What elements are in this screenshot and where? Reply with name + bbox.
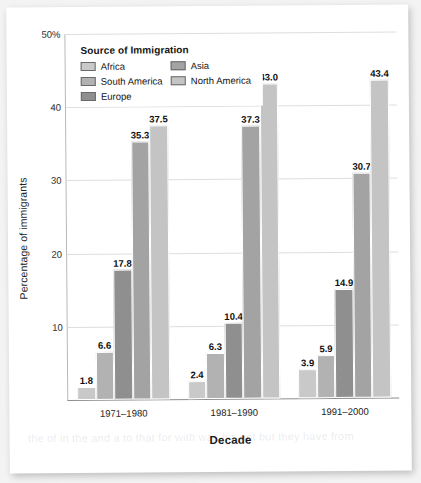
bar: 37.5 [149,125,170,400]
legend-label: Africa [101,61,125,72]
x-axis-title: Decade [61,433,401,448]
bar: 14.9 [335,289,354,398]
legend-item-north-america: North America [171,74,259,88]
y-axis-tick-label: 30 [51,175,62,186]
x-axis-tick-label: 1971–1980 [100,407,148,418]
bar: 43.4 [370,80,391,398]
bar: 37.3 [241,126,262,399]
bar-value-label: 3.9 [301,358,314,369]
legend-item-asia: Asia [171,59,259,73]
bar: 6.3 [206,353,225,399]
x-axis-tick-label: 1981–1990 [211,407,259,418]
bar-value-label: 14.9 [335,277,354,288]
y-axis-tick-label: 10 [52,321,63,332]
legend-label: Asia [191,60,210,71]
legend-swatch-icon [81,62,96,71]
legend-item-south-america: South America [81,74,169,88]
bar: 6.6 [95,351,114,399]
bar: 35.3 [131,141,152,400]
bar: 1.8 [77,387,96,400]
bar-value-label: 6.3 [209,341,222,352]
bar-value-label: 6.6 [98,339,111,350]
bar: 3.9 [298,370,317,399]
bar-value-label: 2.4 [190,369,203,380]
legend-swatch-icon [171,76,186,85]
bar-value-label: 43.4 [370,68,389,79]
y-axis-tick-label: 40 [50,102,61,113]
y-axis-tick-label: 50% [41,29,60,40]
legend-label: Europe [101,91,132,102]
bar: 5.9 [317,355,336,398]
scan-background: the of in the and a to that for with was… [0,0,421,483]
bar: 43.0 [260,84,281,399]
bar: 30.7 [352,173,372,398]
legend-label: North America [191,75,251,86]
bar: 2.4 [188,381,207,399]
bar: 10.4 [224,323,243,399]
bar-value-label: 37.5 [149,113,168,124]
legend-swatch-icon [81,92,96,101]
legend-title: Source of Immigration [80,44,256,56]
bar-chart: Percentage of immigrants 1020304050% 1.8… [7,5,411,472]
bar: 17.8 [113,269,133,399]
bar-value-label: 5.9 [319,343,332,354]
legend-label: South America [101,75,163,86]
x-axis-tick-label: 1991–2000 [321,406,369,417]
bar-value-label: 35.3 [131,129,150,140]
legend-swatch-icon [171,61,186,70]
y-axis-title: Percentage of immigrants [16,138,34,338]
y-axis-tick-label: 20 [51,248,62,259]
bar-group: 3.95.914.930.743.41991–2000 [287,32,401,399]
bar-value-label: 10.4 [224,311,243,322]
bar-value-label: 30.7 [352,161,371,172]
legend: Source of Immigration AfricaAsiaSouth Am… [74,39,263,107]
bar-value-label: 37.3 [241,114,260,125]
legend-item-europe: Europe [81,89,169,103]
legend-items: AfricaAsiaSouth AmericaNorth AmericaEuro… [81,59,257,103]
bar-value-label: 17.8 [113,257,132,268]
bar-value-label: 1.8 [80,375,93,386]
legend-swatch-icon [81,77,96,86]
legend-item-africa: Africa [81,59,169,73]
